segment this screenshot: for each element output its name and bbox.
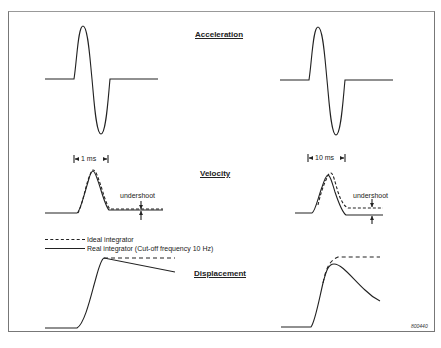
- label-displacement: Displacement: [194, 269, 246, 278]
- figure-code: 800440: [411, 323, 428, 329]
- acceleration-curve-right: [280, 27, 393, 135]
- undershoot-label-right: undershoot: [353, 192, 388, 199]
- legend-real: Real integrator (Cut-off frequency 10 Hz…: [45, 245, 213, 252]
- legend-real-label: Real integrator (Cut-off frequency 10 Hz…: [87, 245, 213, 252]
- dashed-line-swatch: [45, 239, 85, 240]
- time-marker-right: 10 ms: [315, 154, 334, 161]
- time-marker-left: 1 ms: [81, 155, 96, 162]
- label-velocity: Velocity: [200, 169, 230, 178]
- undershoot-label-left: undershoot: [120, 192, 155, 199]
- solid-line-swatch: [45, 248, 85, 249]
- displacement-ideal-right: [323, 257, 380, 283]
- label-acceleration: Acceleration: [195, 30, 243, 39]
- legend-ideal: Ideal integrator: [45, 236, 134, 243]
- displacement-real-left: [45, 258, 175, 328]
- displacement-real-right: [281, 264, 380, 327]
- legend-ideal-label: Ideal integrator: [87, 236, 134, 243]
- acceleration-curve-left: [45, 26, 158, 134]
- velocity-ideal-right: [318, 173, 383, 208]
